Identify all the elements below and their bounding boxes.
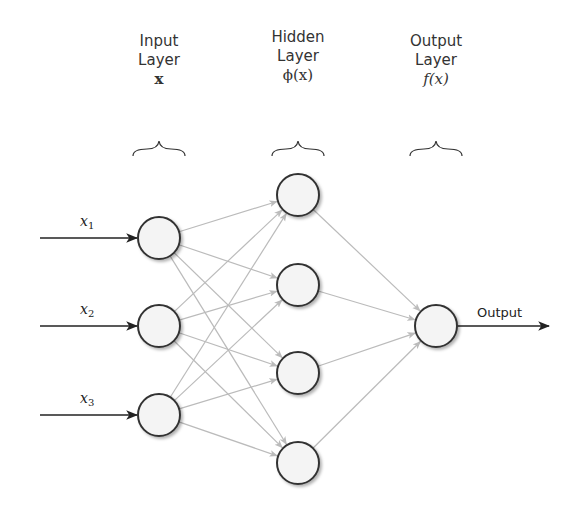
hidden-node-3: [277, 352, 319, 394]
edge-hidden-1-to-output-1: [313, 209, 420, 310]
output-layer-brace: [410, 141, 462, 156]
input-layer-brace: [133, 141, 185, 156]
output-label: Output: [477, 305, 522, 320]
edge-input-1-to-hidden-1: [179, 202, 277, 232]
input-label-2: x2: [80, 301, 94, 319]
hidden-node-4: [277, 442, 319, 484]
hidden-layer-brace: [272, 141, 324, 156]
input-node-3: [138, 394, 180, 436]
hidden-node-2: [277, 264, 319, 306]
input-node-1: [138, 217, 180, 259]
edge-hidden-2-to-output-1: [318, 291, 415, 320]
edge-input-3-to-hidden-2: [174, 300, 282, 401]
input-label-1: x1: [80, 213, 94, 231]
edge-input-2-to-hidden-1: [174, 210, 282, 312]
input-node-2: [138, 305, 180, 347]
neural-network-diagram: x1x2x3Output: [0, 0, 579, 521]
hidden-node-1: [277, 174, 319, 216]
edge-input-3-to-hidden-4: [179, 422, 277, 456]
input-label-3: x3: [80, 390, 94, 408]
output-node-1: [415, 305, 457, 347]
edge-hidden-4-to-output-1: [313, 341, 420, 448]
edge-input-3-to-hidden-1: [170, 214, 286, 398]
